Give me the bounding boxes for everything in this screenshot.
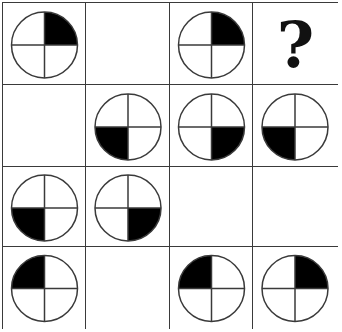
quadrant-circle-tr-icon bbox=[170, 3, 253, 85]
grid-cell-r0-c0 bbox=[2, 2, 87, 86]
grid-cell-r2-c2 bbox=[169, 166, 254, 248]
grid-cell-r2-c0 bbox=[2, 166, 87, 248]
grid-cell-r3-c2 bbox=[169, 246, 254, 329]
quadrant-circle-tr-icon bbox=[3, 3, 86, 85]
grid-cell-r1-c0 bbox=[2, 84, 87, 168]
question-mark: ? bbox=[253, 3, 338, 86]
quadrant-circle-tr-icon bbox=[253, 247, 337, 328]
quadrant-circle-bl-icon bbox=[253, 85, 337, 167]
grid-cell-r1-c1 bbox=[85, 84, 171, 168]
quadrant-circle-br-icon bbox=[170, 85, 253, 167]
puzzle-grid: ? bbox=[2, 2, 342, 332]
quadrant-circle-tl-icon bbox=[3, 247, 86, 328]
grid-cell-r0-c2 bbox=[169, 2, 254, 86]
grid-cell-r1-c3 bbox=[252, 84, 338, 168]
grid-cell-r3-c1 bbox=[85, 246, 171, 329]
quadrant-circle-bl-icon bbox=[3, 167, 86, 247]
grid-cell-r1-c2 bbox=[169, 84, 254, 168]
grid-cell-r3-c0 bbox=[2, 246, 87, 329]
quadrant-circle-br-icon bbox=[86, 167, 170, 247]
quadrant-circle-tl-icon bbox=[170, 247, 253, 328]
quadrant-circle-bl-icon bbox=[86, 85, 170, 167]
grid-cell-r0-c1 bbox=[85, 2, 171, 86]
grid-cell-r2-c3 bbox=[252, 166, 338, 248]
grid-cell-r0-c3: ? bbox=[252, 2, 338, 86]
grid-cell-r2-c1 bbox=[85, 166, 171, 248]
grid-cell-r3-c3 bbox=[252, 246, 338, 329]
